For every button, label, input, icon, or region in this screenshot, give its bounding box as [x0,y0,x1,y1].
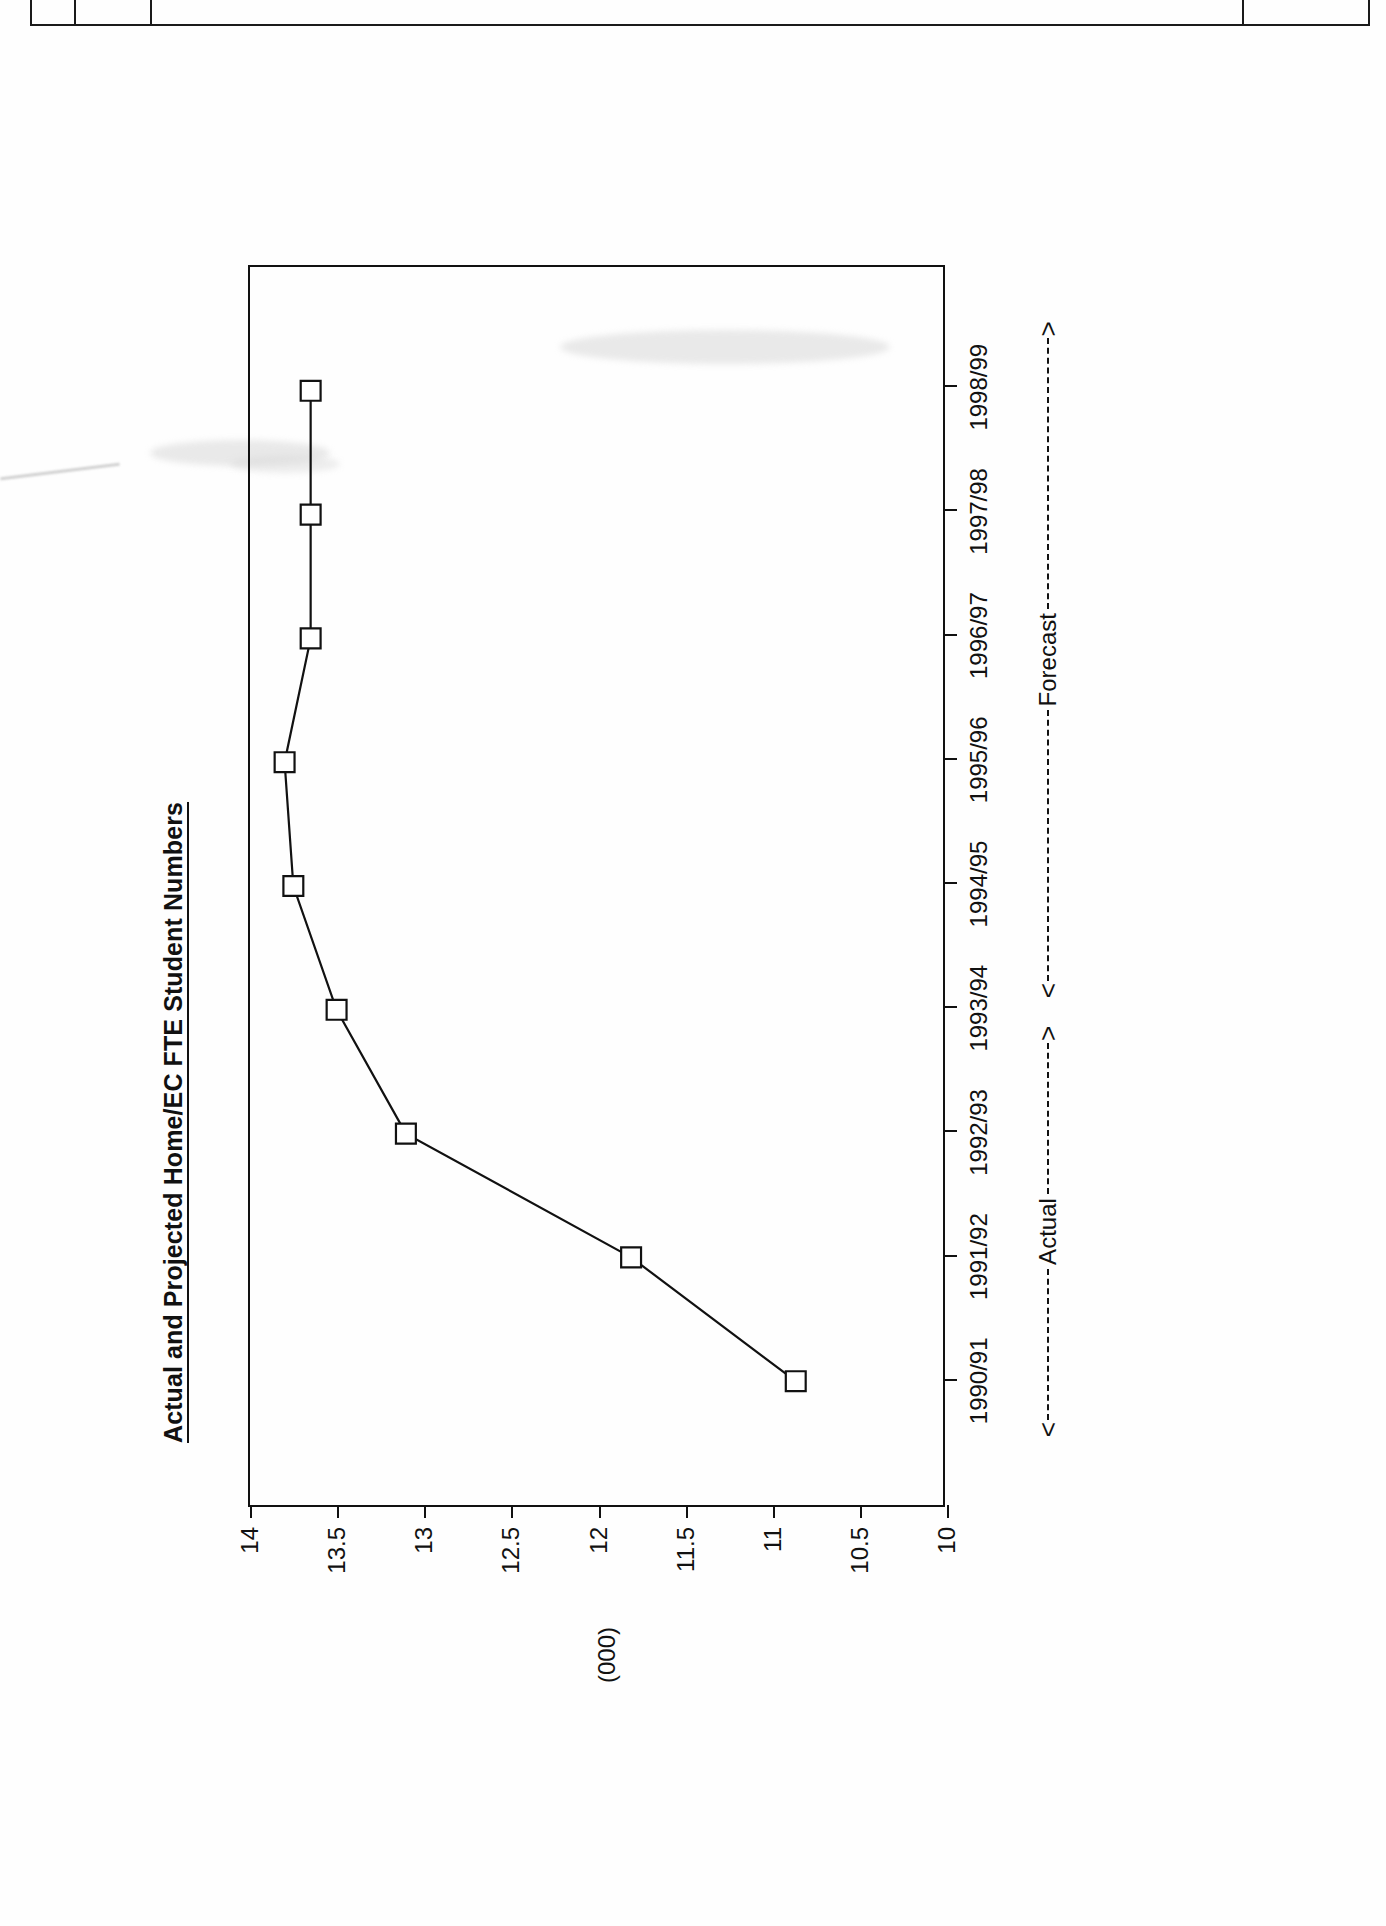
x-axis-tick-label: 1995/96 [965,716,993,803]
data-point-marker [786,1371,806,1391]
x-axis-tick [943,1379,957,1381]
y-axis-tick [424,1505,426,1518]
x-axis-tick [943,1130,957,1132]
plot-area: 1413.51312.51211.51110.5101990/911991/92… [248,265,945,1507]
x-axis-tick [943,882,957,884]
chart-figure: Actual and Projected Home/EC FTE Student… [73,183,1313,1743]
annotation-right-arrow: > [1035,1024,1061,1043]
y-axis-tick [337,1505,339,1518]
axis-annotations: <Actual> <Forecast> [1028,265,1072,1507]
y-axis-tick-label: 10 [933,1527,961,1554]
x-axis-tick-label: 1998/99 [965,344,993,431]
y-axis-tick [511,1505,513,1518]
x-axis-tick-label: 1996/97 [965,592,993,679]
data-point-marker [396,1124,416,1144]
series-layer [250,267,943,1505]
header-divider-2 [150,0,152,24]
x-axis-tick-label: 1991/92 [965,1213,993,1300]
annotation-dash-right [1047,338,1049,609]
data-point-marker [301,628,321,648]
x-axis-tick [943,509,957,511]
annotation-label: Actual [1034,1194,1062,1269]
annotation-left-arrow: < [1035,981,1061,1000]
y-axis-tick-label: 11 [759,1527,787,1552]
data-point-marker [301,505,321,525]
x-axis-tick [943,1255,957,1257]
x-axis-tick-label: 1990/91 [965,1337,993,1424]
x-axis-tick-label: 1997/98 [965,468,993,555]
y-axis-caption: (000) [593,1627,621,1683]
annotation-actual: <Actual> [1028,1020,1068,1443]
annotation-dash-left [1047,1269,1049,1420]
y-axis-tick [599,1505,601,1518]
y-axis-tick [860,1505,862,1518]
y-axis-tick-label: 11.5 [672,1527,700,1572]
y-axis-tick-label: 13 [410,1527,438,1554]
x-axis-tick [943,385,957,387]
annotation-right-arrow: > [1035,319,1061,338]
x-axis-tick-label: 1993/94 [965,965,993,1052]
y-axis-tick [250,1505,252,1518]
x-axis-tick [943,758,957,760]
chart-title: Actual and Projected Home/EC FTE Student… [159,683,188,1443]
y-axis-tick-label: 14 [236,1527,264,1554]
annotation-dash-left [1047,710,1049,981]
y-axis-tick-label: 12 [585,1527,613,1554]
data-point-marker [301,381,321,401]
scanned-page: 5. Actual and Projected Home/EC FTE Stud… [0,0,1386,1926]
y-axis-tick-label: 13.5 [323,1527,351,1574]
page-header-strip [30,0,1370,26]
annotation-dash-right [1047,1043,1049,1194]
x-axis-tick [943,634,957,636]
x-axis-tick-label: 1994/95 [965,841,993,928]
series-markers [275,381,806,1391]
data-point-marker [283,876,303,896]
annotation-forecast: <Forecast> [1028,319,1068,1000]
annotation-left-arrow: < [1035,1420,1061,1439]
y-axis-tick [947,1505,949,1518]
data-point-marker [327,1000,347,1020]
y-axis-tick-label: 12.5 [497,1527,525,1574]
header-divider-3 [1242,0,1244,24]
x-axis-tick-label: 1992/93 [965,1089,993,1176]
y-axis-tick-label: 10.5 [846,1527,874,1574]
x-axis-tick [943,1006,957,1008]
series-line [285,391,796,1381]
data-point-marker [621,1247,641,1267]
annotation-label: Forecast [1034,609,1062,710]
data-point-marker [275,752,295,772]
y-axis-tick [686,1505,688,1518]
y-axis-tick [773,1505,775,1518]
header-divider-1 [74,0,76,24]
